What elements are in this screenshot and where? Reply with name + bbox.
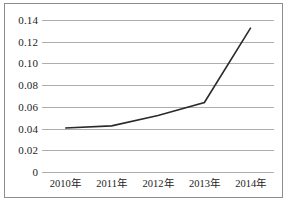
gridline (42, 172, 274, 173)
y-tick-label: 0.08 (18, 80, 38, 91)
y-tick-label: 0.04 (18, 124, 38, 135)
y-tick-label: 0 (32, 167, 38, 178)
x-tick-label-2012: 2012年 (135, 176, 181, 192)
chart-figure: 0.14 0.12 0.10 0.08 0.06 0.04 0.02 0 201… (0, 0, 288, 202)
x-tick-label-2013: 2013年 (181, 176, 227, 192)
y-tick-label: 0.14 (18, 15, 38, 26)
data-line-series-1 (65, 28, 251, 128)
y-tick-label: 0.02 (18, 145, 38, 156)
x-tick-label-2010: 2010年 (42, 176, 88, 192)
data-series-layer (42, 20, 274, 172)
y-tick-label: 0.10 (18, 58, 38, 69)
y-tick-label: 0.12 (18, 37, 38, 48)
plot-area (42, 20, 274, 172)
x-tick-label-2014: 2014年 (228, 176, 274, 192)
y-tick-label: 0.06 (18, 102, 38, 113)
y-axis-tick-labels: 0.14 0.12 0.10 0.08 0.06 0.04 0.02 0 (4, 20, 38, 172)
x-axis-tick-labels: 2010年 2011年 2012年 2013年 2014年 (42, 176, 274, 192)
x-tick-label-2011: 2011年 (88, 176, 134, 192)
